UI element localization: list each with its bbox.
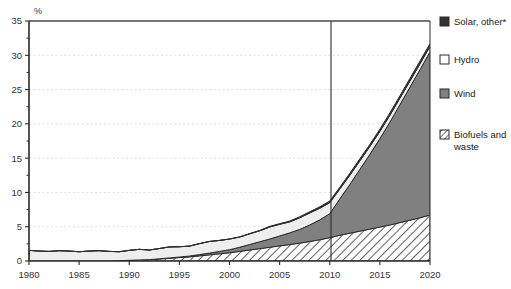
legend-swatch-2 (440, 55, 449, 64)
x-tick-label: 2000 (219, 269, 240, 280)
legend-swatch-4 (440, 130, 449, 139)
x-tick-label: 1980 (18, 269, 39, 280)
stacked-area-chart: 05101520253035 1980198519901995200020052… (0, 0, 511, 289)
x-tick-label: 2015 (369, 269, 390, 280)
legend-item: Wind (440, 88, 476, 99)
x-tick-label: 2010 (319, 269, 340, 280)
legend-label-cont: waste (453, 141, 479, 152)
chart-figure: 05101520253035 1980198519901995200020052… (0, 0, 511, 289)
legend-label: Hydro (454, 54, 479, 65)
y-tick-label: 35 (11, 15, 22, 26)
legend-label: Wind (454, 88, 476, 99)
x-tick-label: 1985 (69, 269, 90, 280)
y-tick-label: 20 (11, 118, 22, 129)
x-tick-label: 1990 (119, 269, 140, 280)
y-tick-label: 30 (11, 50, 22, 61)
legend-swatch-3 (440, 89, 449, 98)
y-tick-label: 10 (11, 187, 22, 198)
legend-label: Solar, other* (454, 16, 507, 27)
legend-item: Hydro (440, 54, 479, 65)
x-tick-label: 1995 (169, 269, 190, 280)
legend-label: Biofuels and (454, 129, 506, 140)
legend-swatch-1 (440, 17, 449, 26)
y-tick-label: 25 (11, 84, 22, 95)
y-tick-label: 5 (17, 221, 22, 232)
x-tick-label: 2005 (269, 269, 290, 280)
y-tick-label: 0 (17, 255, 22, 266)
y-axis-unit-label: % (34, 6, 42, 16)
x-tick-label: 2020 (419, 269, 440, 280)
y-tick-label: 15 (11, 153, 22, 164)
